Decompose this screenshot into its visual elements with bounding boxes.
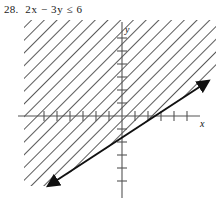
coordinate-plane-graph: x y bbox=[0, 0, 221, 205]
x-axis-label: x bbox=[199, 118, 205, 129]
y-axis-label: y bbox=[124, 24, 130, 35]
inequality-graph-figure: 28.2x − 3y ≤ 6 bbox=[0, 0, 221, 205]
